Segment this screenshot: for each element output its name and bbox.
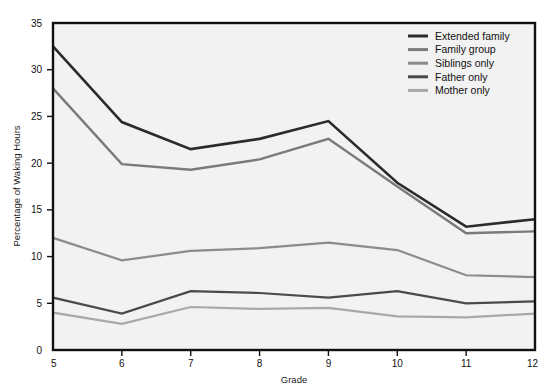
x-tick-label-9: 9 [326, 358, 332, 369]
y-tick-label-10: 10 [31, 251, 43, 262]
y-tick-label-35: 35 [31, 18, 43, 29]
x-axis-label: Grade [281, 374, 307, 385]
y-tick-label-0: 0 [36, 345, 42, 356]
y-tick-label-25: 25 [31, 111, 43, 122]
legend-label-father-only: Father only [435, 71, 488, 83]
x-tick-label-6: 6 [119, 358, 125, 369]
y-tick-label-20: 20 [31, 158, 43, 169]
x-tick-label-12: 12 [527, 358, 539, 369]
x-tick-label-5: 5 [51, 358, 57, 369]
x-tick-label-11: 11 [461, 358, 472, 369]
x-tick-label-8: 8 [257, 358, 263, 369]
chart-svg: 05101520253035 56789101112 Percentage of… [0, 0, 548, 390]
y-tick-label-30: 30 [31, 64, 43, 75]
legend-label-siblings-only: Siblings only [435, 57, 495, 69]
legend-label-family-group: Family group [435, 43, 496, 55]
y-axis-label: Percentage of Waking Hours [11, 125, 22, 246]
x-tick-label-10: 10 [392, 358, 404, 369]
x-tick-label-7: 7 [188, 358, 194, 369]
legend-label-extended-family: Extended family [435, 30, 510, 42]
y-tick-label-15: 15 [31, 204, 43, 215]
y-tick-label-5: 5 [36, 298, 42, 309]
legend-label-mother-only: Mother only [435, 84, 491, 96]
line-chart: 05101520253035 56789101112 Percentage of… [0, 0, 548, 390]
